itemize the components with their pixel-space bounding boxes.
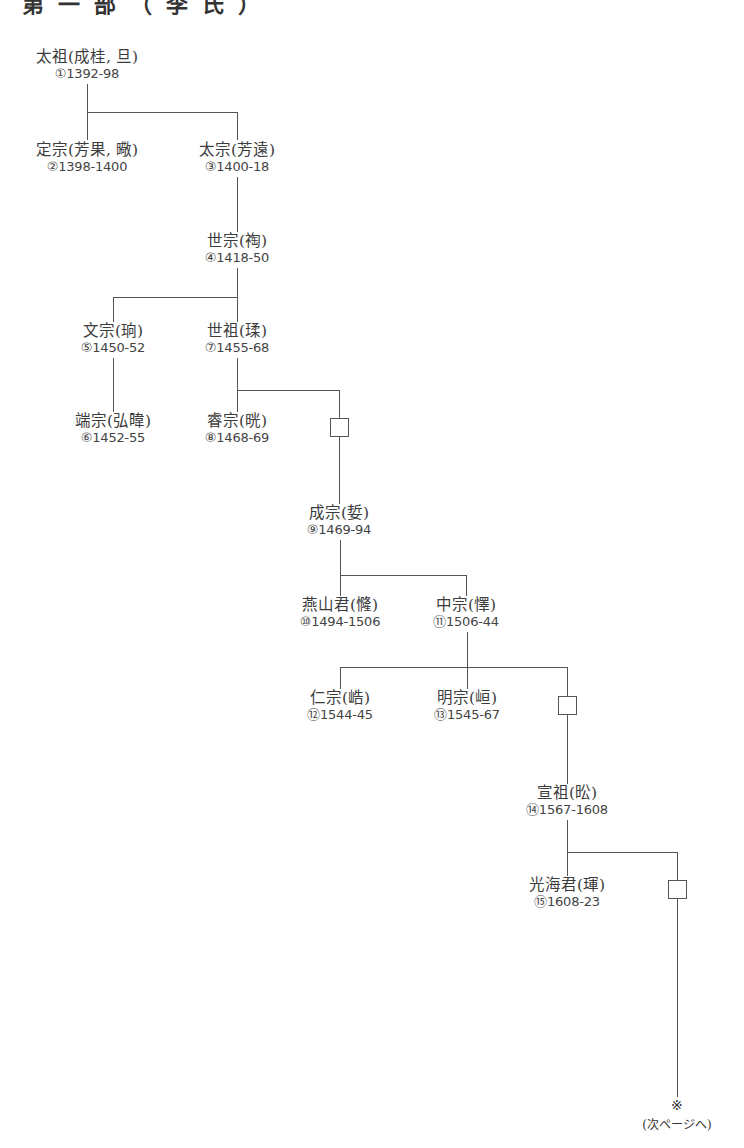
connector-line (340, 540, 341, 575)
connector-line (113, 297, 237, 298)
reign-years: ⑪1506-44 (386, 614, 546, 629)
connector-line (339, 437, 340, 504)
ruler-name: 光海君(琿) (487, 876, 647, 894)
connector-line (340, 667, 567, 668)
connector-line (237, 297, 238, 322)
ruler-name: 世宗(祹) (157, 232, 317, 250)
connector-line (567, 667, 568, 696)
page-heading: 第一部（李氏） (22, 0, 274, 18)
connector-line (87, 112, 237, 113)
node-gwanghaegun: 光海君(琿) ⑮1608-23 (487, 876, 647, 909)
reign-years: ③1400-18 (157, 159, 317, 174)
reign-years: ⑬1545-67 (387, 707, 547, 722)
node-seonjo: 宣祖(昖) ⑭1567-1608 (487, 784, 647, 817)
node-taejong: 太宗(芳遠) ③1400-18 (157, 141, 317, 174)
continuation-mark-icon: ※ (657, 1097, 697, 1113)
node-jungjong: 中宗(懌) ⑪1506-44 (386, 596, 546, 629)
reign-years: ②1398-1400 (7, 159, 167, 174)
reign-years: ⑦1455-68 (157, 340, 317, 355)
ruler-name: 太宗(芳遠) (157, 141, 317, 159)
connector-line (237, 112, 238, 140)
connector-line (87, 84, 88, 112)
ruler-name: 中宗(懌) (386, 596, 546, 614)
connector-line (466, 575, 467, 596)
connector-line (567, 820, 568, 876)
reign-years: ⑮1608-23 (487, 894, 647, 909)
connector-line (237, 390, 339, 391)
connector-line (467, 632, 468, 689)
ruler-name: 太祖(成桂, 旦) (7, 48, 167, 66)
node-yejong: 睿宗(晄) ⑧1468-69 (157, 412, 317, 445)
connector-line (677, 899, 678, 1097)
connector-line (339, 390, 340, 418)
ruler-name: 宣祖(昖) (487, 784, 647, 802)
ruler-name: 定宗(芳果, 曔) (7, 141, 167, 159)
connector-line (113, 358, 114, 412)
connector-line (340, 575, 466, 576)
node-sejong: 世宗(祹) ④1418-50 (157, 232, 317, 265)
ruler-name: 成宗(娎) (259, 504, 419, 522)
node-jeongjong: 定宗(芳果, 曔) ②1398-1400 (7, 141, 167, 174)
reign-years: ④1418-50 (157, 250, 317, 265)
connector-line (567, 715, 568, 784)
unnamed-heir-box (668, 880, 687, 899)
connector-line (340, 575, 341, 596)
connector-line (113, 297, 114, 322)
reign-years: ⑧1468-69 (157, 430, 317, 445)
node-sejo: 世祖(瑈) ⑦1455-68 (157, 322, 317, 355)
reign-years: ⑨1469-94 (259, 522, 419, 537)
connector-line (87, 112, 88, 140)
reign-years: ⑭1567-1608 (487, 802, 647, 817)
connector-line (340, 667, 341, 689)
connector-line (237, 268, 238, 297)
connector-line (237, 177, 238, 232)
connector-line (567, 852, 677, 853)
reign-years: ①1392-98 (7, 66, 167, 81)
ruler-name: 明宗(峘) (387, 689, 547, 707)
connector-line (237, 358, 238, 412)
ruler-name: 睿宗(晄) (157, 412, 317, 430)
ruler-name: 世祖(瑈) (157, 322, 317, 340)
unnamed-heir-box (558, 696, 577, 715)
node-myeongjong: 明宗(峘) ⑬1545-67 (387, 689, 547, 722)
node-taejo: 太祖(成桂, 旦) ①1392-98 (7, 48, 167, 81)
unnamed-heir-box (330, 418, 349, 437)
connector-line (677, 852, 678, 880)
node-seongjong: 成宗(娎) ⑨1469-94 (259, 504, 419, 537)
continued-next-page-label: (次ページへ) (627, 1115, 727, 1132)
